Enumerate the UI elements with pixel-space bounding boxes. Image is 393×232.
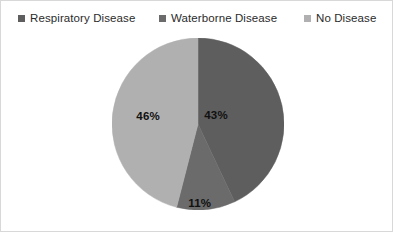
pie-svg	[112, 38, 284, 210]
legend-item-label: Waterborne Disease	[171, 8, 277, 28]
pie-chart-figure: Respiratory Disease Waterborne Disease N…	[0, 0, 393, 232]
slice-value-label-no-disease: 46%	[136, 110, 160, 122]
slice-value-label-waterborne-disease: 11%	[188, 197, 211, 209]
chart-legend: Respiratory Disease Waterborne Disease N…	[0, 8, 393, 28]
legend-swatch-icon	[159, 15, 166, 22]
legend-swatch-icon	[18, 15, 25, 22]
legend-swatch-icon	[304, 15, 311, 22]
legend-item-waterborne-disease[interactable]: Waterborne Disease	[159, 8, 277, 28]
legend-item-label: No Disease	[316, 8, 376, 28]
pie-plot-area: 43% 11% 46%	[112, 38, 284, 210]
legend-item-no-disease[interactable]: No Disease	[304, 8, 376, 28]
legend-item-respiratory-disease[interactable]: Respiratory Disease	[18, 8, 135, 28]
slice-value-label-respiratory-disease: 43%	[204, 109, 228, 121]
legend-item-label: Respiratory Disease	[30, 8, 135, 28]
